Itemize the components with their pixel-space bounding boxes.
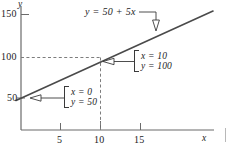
line-graph-figure: y x 150 100 50 5 10 15 y = 50 + 5x x = 0…: [0, 0, 228, 154]
x-tick-label-5: 5: [57, 135, 62, 145]
annotation-intercept-line2: y = 50: [71, 97, 97, 108]
x-axis-label: x: [202, 134, 206, 144]
equation-label: y = 50 + 5x: [85, 7, 136, 17]
bracket-icon: [64, 86, 69, 108]
annotation-midpoint: x = 10 y = 100: [134, 50, 172, 72]
intercept-arrowhead-icon: [30, 95, 41, 101]
y-tick-label-50: 50: [7, 93, 17, 103]
y-tick-label-100: 100: [1, 52, 17, 62]
y-axis-label: y: [18, 0, 22, 10]
bracket-icon: [134, 50, 139, 72]
annotation-midpoint-line2: y = 100: [141, 61, 172, 72]
equation-arrowhead-icon: [153, 20, 160, 31]
y-tick-label-150: 150: [1, 9, 17, 19]
plot-area: [0, 0, 228, 154]
annotation-midpoint-line1: x = 10: [141, 51, 172, 62]
annotation-intercept-line1: x = 0: [71, 87, 97, 98]
annotation-midpoint-rows: x = 10 y = 100: [141, 50, 172, 72]
annotation-intercept: x = 0 y = 50: [64, 86, 97, 108]
data-line: [16, 11, 213, 101]
page-margin-rule: [225, 128, 226, 142]
x-tick-label-15: 15: [134, 135, 144, 145]
x-tick-label-10: 10: [94, 135, 104, 145]
annotation-intercept-rows: x = 0 y = 50: [71, 86, 97, 108]
